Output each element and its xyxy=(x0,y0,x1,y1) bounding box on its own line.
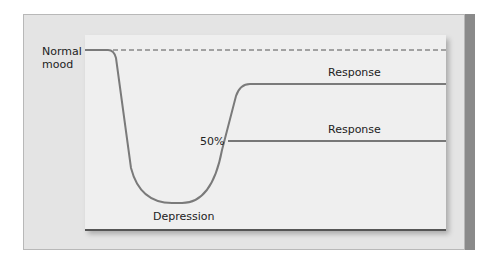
mood-curve-svg xyxy=(0,0,490,262)
mood-curve xyxy=(85,50,446,203)
normal-mood-label-line1: Normal xyxy=(42,45,82,58)
depression-label: Depression xyxy=(153,210,215,223)
response-top-label: Response xyxy=(328,66,381,79)
fifty-percent-label: 50% xyxy=(200,135,224,148)
response-partial-label: Response xyxy=(328,123,381,136)
normal-mood-label: Normal mood xyxy=(42,45,82,71)
normal-mood-label-line2: mood xyxy=(42,58,82,71)
